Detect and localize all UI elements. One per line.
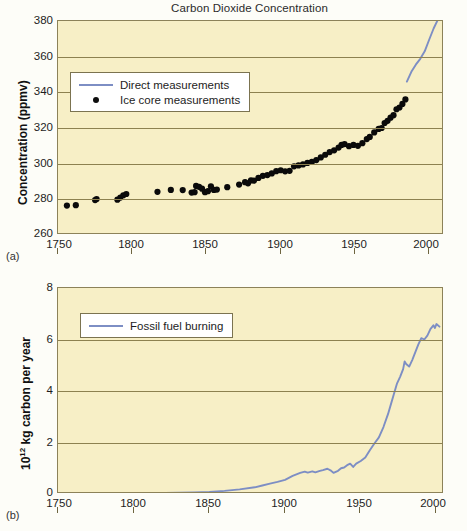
x-tick-b-1900: 1900 [271, 497, 297, 509]
gridline-6 [58, 340, 442, 341]
y-axis-title-fossil-fuel: 1012 kg carbon per year [18, 337, 33, 470]
gridline-320 [58, 128, 442, 129]
ice-core-point [191, 189, 197, 195]
legend-label-fossil-fuel: Fossil fuel burning [125, 320, 223, 332]
dot-swatch-icon [77, 97, 115, 103]
ice-core-point [390, 112, 396, 118]
y-tick-340: 340 [34, 85, 53, 97]
legend-label-ice-core: Ice core measurements [115, 94, 240, 106]
ice-core-point [224, 184, 230, 190]
ice-core-point [168, 187, 174, 193]
fossil-fuel-line [58, 324, 439, 493]
ice-core-point [64, 202, 70, 208]
x-tick-b-1750: 1750 [46, 497, 72, 509]
ice-core-point [367, 134, 373, 140]
x-tick-b-2000: 2000 [420, 497, 446, 509]
x-tick-b-1850: 1850 [195, 497, 221, 509]
x-tick-1900: 1900 [267, 238, 293, 250]
legend-fossil-fuel: Fossil fuel burning [80, 313, 233, 338]
panel-label-a: (a) [6, 250, 19, 262]
ice-core-point [287, 168, 293, 174]
legend-item-fossil-fuel: Fossil fuel burning [87, 318, 223, 333]
gridline-300 [58, 164, 442, 165]
x-tick-1750: 1750 [46, 238, 72, 250]
ice-core-points [64, 96, 409, 208]
y-tick-360: 360 [34, 50, 53, 62]
gridline-2 [58, 443, 442, 444]
y-tick-300: 300 [34, 157, 53, 169]
ice-core-point [123, 191, 129, 197]
y-tick-4: 4 [47, 384, 53, 396]
legend-label-direct: Direct measurements [115, 79, 229, 91]
x-axis-labels-co2: 1750 1800 1850 1900 1950 2000 [57, 234, 443, 254]
line-swatch-icon [87, 325, 125, 327]
y-axis-title-prefix: 10 [19, 457, 33, 470]
ice-core-point [214, 186, 220, 192]
x-tick-b-1800: 1800 [120, 497, 146, 509]
y-axis-title-suffix: kg carbon per year [19, 337, 33, 448]
ice-core-point [180, 187, 186, 193]
x-tick-b-1950: 1950 [346, 497, 372, 509]
y-tick-280: 280 [34, 192, 53, 204]
figure-container: Carbon Dioxide Concentration 380 360 340… [0, 0, 467, 531]
gridline-4 [58, 391, 442, 392]
x-axis-labels-fossil-fuel: 1750 1800 1850 1900 1950 2000 [57, 493, 443, 513]
legend-item-direct-measurements: Direct measurements [77, 77, 240, 92]
ice-core-point [154, 189, 160, 195]
plot-area-co2 [57, 20, 443, 234]
direct-measurements-line [407, 21, 440, 82]
y-axis-title-co2: Concentration (ppmv) [16, 80, 30, 205]
y-tick-2: 2 [47, 436, 53, 448]
x-tick-2000: 2000 [413, 238, 439, 250]
y-tick-320: 320 [34, 121, 53, 133]
y-tick-6: 6 [47, 333, 53, 345]
panel-label-b: (b) [6, 509, 19, 521]
chart-title-co2: Carbon Dioxide Concentration [57, 2, 442, 14]
gridline-360 [58, 57, 442, 58]
legend-item-ice-core: Ice core measurements [77, 92, 240, 107]
y-tick-380: 380 [34, 14, 53, 26]
y-axis-title-exponent: 12 [18, 448, 27, 457]
gridline-280 [58, 199, 442, 200]
y-tick-8: 8 [47, 281, 53, 293]
line-swatch-icon [77, 84, 115, 86]
legend-co2: Direct measurements Ice core measurement… [70, 72, 250, 112]
ice-core-point [236, 181, 242, 187]
x-tick-1850: 1850 [192, 238, 218, 250]
x-tick-1800: 1800 [118, 238, 144, 250]
x-tick-1950: 1950 [341, 238, 367, 250]
ice-core-point [73, 202, 79, 208]
ice-core-point [402, 96, 408, 102]
